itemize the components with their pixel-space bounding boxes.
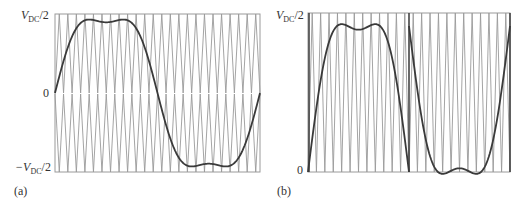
panel-b-caption: (b)	[277, 184, 291, 198]
panel-a-ytick-zero: 0	[43, 86, 49, 100]
panel-b-ytick-top: VDC/2	[276, 8, 304, 24]
pwm-figure: VDC/2 0 −VDC/2 (a) VDC/2 0 (b)	[0, 0, 524, 203]
panel-b-plot	[308, 13, 510, 174]
panel-a-caption: (a)	[14, 184, 27, 198]
upper-carrier-wave	[55, 14, 260, 93]
panel-b-ytick-zero: 0	[297, 163, 303, 177]
panel-a-ytick-top: VDC/2	[21, 8, 49, 24]
modulating-wave	[55, 20, 260, 167]
panel-a-ytick-bottom: −VDC/2	[15, 160, 51, 176]
lower-carrier-wave	[55, 94, 260, 172]
panel-a-plot	[55, 14, 260, 172]
